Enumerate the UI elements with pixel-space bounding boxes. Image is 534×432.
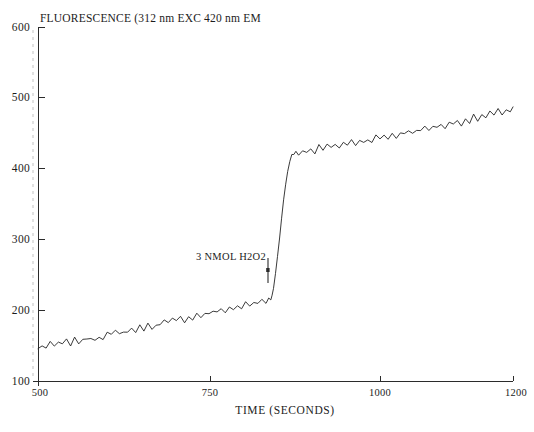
ytick-label-400: 400 [12, 162, 30, 174]
ytick-label-300: 300 [12, 233, 30, 245]
fluorescence-trace [38, 107, 513, 349]
fluorescence-chart: 600 500 400 300 200 100 500 750 1000 120… [0, 0, 534, 432]
y-axis-ticks [33, 27, 45, 381]
xtick-label-1000: 1000 [369, 387, 391, 398]
xtick-label-1200: 1200 [505, 387, 527, 398]
xtick-label-750: 750 [202, 387, 219, 398]
x-axis-title: TIME (SECONDS) [235, 404, 334, 417]
ytick-label-100: 100 [12, 375, 30, 387]
ytick-label-200: 200 [12, 304, 30, 316]
annotation-h2o2-label: 3 NMOL H2O2 [196, 251, 266, 262]
ytick-label-500: 500 [12, 91, 30, 103]
ytick-label-600: 600 [12, 21, 30, 33]
injection-marker-icon [266, 258, 269, 283]
chart-title: FLUORESCENCE (312 nm EXC 420 nm EM [40, 12, 261, 25]
xtick-label-500: 500 [32, 387, 49, 398]
chart-svg: 600 500 400 300 200 100 500 750 1000 120… [0, 0, 534, 432]
